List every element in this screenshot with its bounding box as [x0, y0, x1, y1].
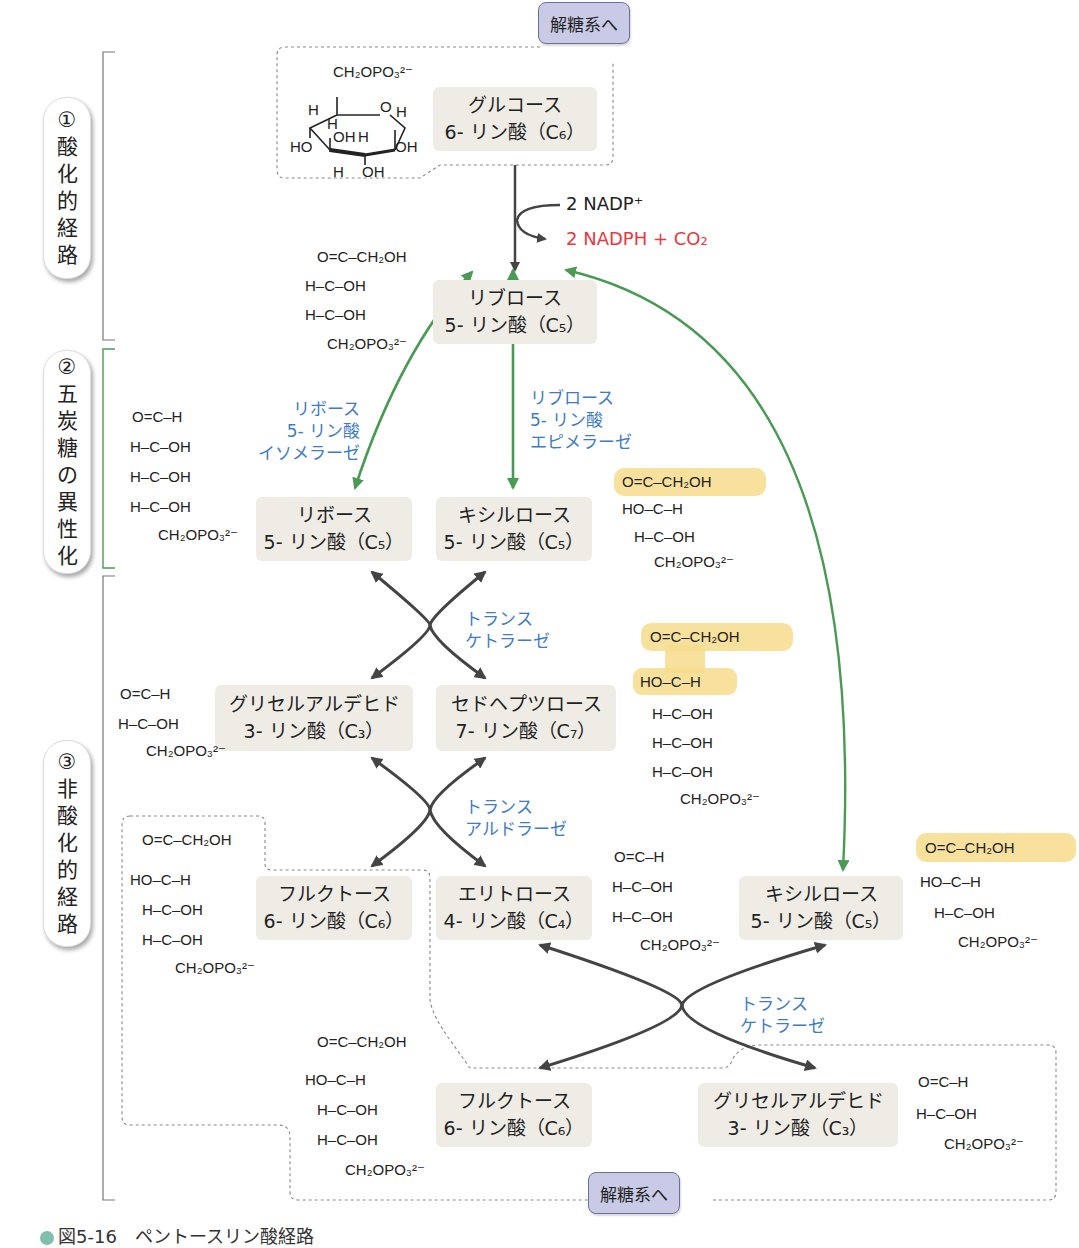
compound-name: フルクトース — [458, 1088, 571, 1115]
dotted-region-left-top — [130, 816, 1056, 1200]
structure-line: CH₂OPO₃²⁻ — [944, 1132, 1024, 1155]
structure-line: CH₂OPO₃²⁻ — [654, 550, 734, 573]
compound-glyceraldehyde-3-phosphate-a: グリセルアルデヒド 3- リン酸（C₃） — [215, 685, 413, 751]
structure-line: H–C–OH — [305, 274, 366, 297]
compound-phosphate: 3- リン酸（C₃） — [728, 1115, 869, 1142]
compound-phosphate: 5- リン酸（C₅） — [444, 529, 585, 556]
structure-line: O=C–H — [918, 1070, 968, 1093]
ring-label: H — [358, 125, 369, 148]
phase-3-char: 路 — [57, 911, 78, 938]
phase-2-char: の — [57, 462, 78, 489]
enzyme-ribose-5-phosphate-isomerase: リボース 5- リン酸 イソメラーゼ — [240, 398, 360, 464]
structure-line: H–C–OH — [634, 525, 695, 548]
cofactor-curve — [517, 205, 560, 239]
phase-3-char: 経 — [57, 884, 78, 911]
phase-3-char: 非 — [57, 776, 78, 803]
enzyme-line: エピメラーゼ — [530, 431, 632, 453]
cofactor-nadp: 2 NADP⁺ — [566, 193, 643, 214]
compound-name: グリセルアルデヒド — [229, 691, 400, 718]
phase-1-label: ① 酸 化 的 経 路 — [43, 97, 91, 279]
structure-line: CH₂OPO₃²⁻ — [958, 930, 1038, 953]
glucose-ring-ch2opo3: CH₂OPO₃²⁻ — [333, 60, 413, 83]
structure-line: HO–C–H — [130, 868, 191, 891]
phase-2-char: 炭 — [57, 408, 78, 435]
structure-line: CH₂OPO₃²⁻ — [175, 956, 255, 979]
compound-phosphate: 4- リン酸（C₄） — [444, 908, 585, 935]
arrow-ta-a — [372, 758, 430, 866]
structure-line: H–C–OH — [142, 928, 203, 951]
structure-line: CH₂OPO₃²⁻ — [345, 1158, 425, 1181]
phase-1-char: 化 — [57, 161, 78, 188]
enzyme-transaldolase: トランス アルドラーゼ — [465, 796, 567, 840]
compound-name: キシルロース — [765, 881, 878, 908]
enzyme-transketolase-2: トランス ケトラーゼ — [740, 993, 825, 1037]
caption-bullet-icon — [40, 1231, 54, 1245]
structure-line: HO–C–H — [640, 670, 701, 693]
compound-name: エリトロース — [458, 881, 571, 908]
compound-ribose-5-phosphate: リボース 5- リン酸（C₅） — [256, 497, 412, 561]
structure-line: H–C–OH — [305, 303, 366, 326]
enzyme-line: トランス — [740, 993, 825, 1015]
structure-line: H–C–OH — [934, 901, 995, 924]
structure-line: CH₂OPO₃²⁻ — [327, 332, 407, 355]
phase-3-number: ③ — [58, 749, 77, 776]
structure-line: H–C–OH — [130, 435, 191, 458]
compound-ribulose-5-phosphate: リブロース 5- リン酸（C₅） — [433, 280, 597, 344]
enzyme-transketolase-1: トランス ケトラーゼ — [465, 608, 550, 652]
structure-line: O=C–CH₂OH — [622, 470, 712, 493]
structure-line: CH₂OPO₃²⁻ — [146, 739, 226, 762]
structure-line: H–C–OH — [142, 898, 203, 921]
compound-fructose-6-phosphate-b: フルクトース 6- リン酸（C₆） — [436, 1083, 592, 1147]
enzyme-line: ケトラーゼ — [740, 1015, 825, 1037]
compound-name: グルコース — [468, 92, 562, 119]
compound-xylulose-5-phosphate-b: キシルロース 5- リン酸（C₅） — [739, 876, 903, 940]
structure-line: H–C–OH — [118, 712, 179, 735]
structure-line: H–C–OH — [130, 495, 191, 518]
to-glycolysis-tag-top: 解糖系へ — [538, 2, 630, 44]
phase-1-bracket — [103, 52, 115, 340]
structure-line: O=C–CH₂OH — [925, 836, 1015, 859]
compound-phosphate: 5- リン酸（C₅） — [445, 312, 586, 339]
structure-line: H–C–OH — [317, 1128, 378, 1151]
enzyme-line: イソメラーゼ — [240, 442, 360, 464]
compound-name: キシルロース — [458, 502, 571, 529]
structure-line: O=C–CH₂OH — [317, 245, 407, 268]
compound-name: リボース — [297, 502, 372, 529]
enzyme-line: トランス — [465, 608, 550, 630]
ring-label: O — [380, 95, 392, 118]
compound-phosphate: 5- リン酸（C₅） — [751, 908, 892, 935]
enzyme-line: ケトラーゼ — [465, 630, 550, 652]
ring-label: OH — [395, 135, 418, 158]
structure-line: O=C–CH₂OH — [317, 1030, 407, 1053]
compound-name: リブロース — [468, 285, 562, 312]
phase-1-char: 路 — [57, 242, 78, 269]
phase-1-char: 的 — [57, 188, 78, 215]
structure-line: HO–C–H — [622, 497, 683, 520]
compound-phosphate: 6- リン酸（C₆） — [264, 908, 405, 935]
structure-line: O=C–CH₂OH — [142, 828, 232, 851]
structure-line: H–C–OH — [317, 1098, 378, 1121]
figure-caption: 図5-16 ペントースリン酸経路 — [40, 1222, 314, 1248]
caption-text: 図5-16 ペントースリン酸経路 — [58, 1226, 314, 1247]
ring-label: H — [308, 98, 319, 121]
phase-2-char: 性 — [57, 516, 78, 543]
compound-xylulose-5-phosphate-a: キシルロース 5- リン酸（C₅） — [436, 497, 592, 561]
compound-glyceraldehyde-3-phosphate-b: グリセルアルデヒド 3- リン酸（C₃） — [698, 1083, 898, 1147]
compound-glucose-6-phosphate: グルコース 6- リン酸（C₆） — [433, 87, 597, 151]
structure-line: H–C–OH — [652, 760, 713, 783]
phase-2-char: 化 — [57, 543, 78, 570]
phase-1-char: 酸 — [57, 134, 78, 161]
ring-label: OH — [333, 125, 356, 148]
compound-phosphate: 5- リン酸（C₅） — [264, 529, 405, 556]
phase-2-bracket — [103, 349, 115, 568]
structure-line: O=C–CH₂OH — [650, 625, 740, 648]
enzyme-ribulose-5-phosphate-epimerase: リブロース 5- リン酸 エピメラーゼ — [530, 387, 632, 453]
to-glycolysis-tag-bottom: 解糖系へ — [588, 1172, 680, 1214]
structure-line: CH₂OPO₃²⁻ — [158, 523, 238, 546]
ring-label: OH — [362, 160, 385, 183]
structure-line: H–C–OH — [612, 905, 673, 928]
arrow-tk1-a — [372, 572, 430, 678]
compound-erythrose-4-phosphate: エリトロース 4- リン酸（C₄） — [436, 876, 592, 940]
enzyme-line: トランス — [465, 796, 567, 818]
